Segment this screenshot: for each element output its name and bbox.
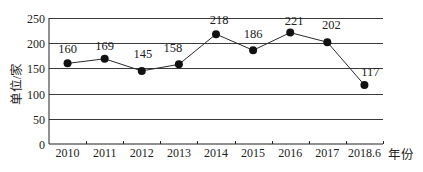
data-label: 202 xyxy=(322,18,341,32)
data-point-marker xyxy=(286,29,294,37)
chart-canvas: 050100150200250 201020112012201320142015… xyxy=(0,0,423,172)
x-tick-label: 2012 xyxy=(130,146,154,160)
data-label: 158 xyxy=(164,41,183,55)
data-point-marker xyxy=(249,46,257,54)
data-label: 145 xyxy=(133,47,152,61)
x-tick-label: 2011 xyxy=(93,146,117,160)
data-point-marker xyxy=(212,30,220,38)
line-chart: 050100150200250 201020112012201320142015… xyxy=(0,0,423,172)
series-line-group xyxy=(64,29,369,89)
y-tick-label: 0 xyxy=(39,138,45,152)
data-point-marker xyxy=(101,55,109,63)
x-tick-label: 2016 xyxy=(278,146,302,160)
data-point-marker xyxy=(64,59,72,67)
x-axis-title: 年份 xyxy=(388,148,414,162)
y-tick-label: 250 xyxy=(27,12,45,26)
y-tick-label: 100 xyxy=(27,88,45,102)
x-tick-label: 2018.6 xyxy=(348,146,381,160)
data-label: 117 xyxy=(361,65,379,79)
data-label: 160 xyxy=(58,42,77,56)
data-point-marker xyxy=(138,67,146,75)
x-tick-label: 2017 xyxy=(315,146,339,160)
x-tick-label: 2013 xyxy=(167,146,191,160)
data-labels: 160169145158218186221202117 xyxy=(58,13,379,79)
y-tick-labels: 050100150200250 xyxy=(27,12,45,152)
y-tick-label: 150 xyxy=(27,62,45,76)
data-label: 221 xyxy=(285,14,304,28)
data-label: 218 xyxy=(210,13,229,27)
data-label: 169 xyxy=(95,39,114,53)
y-axis-title: 单位/家 xyxy=(9,63,24,105)
x-tick-label: 2014 xyxy=(204,146,228,160)
data-label: 186 xyxy=(244,27,263,41)
x-tick-label: 2010 xyxy=(56,146,80,160)
x-tick-label: 2015 xyxy=(241,146,265,160)
y-tick-label: 50 xyxy=(33,113,45,127)
y-tick-label: 200 xyxy=(27,37,45,51)
data-point-marker xyxy=(175,60,183,68)
data-point-marker xyxy=(360,81,368,89)
data-point-marker xyxy=(323,38,331,46)
